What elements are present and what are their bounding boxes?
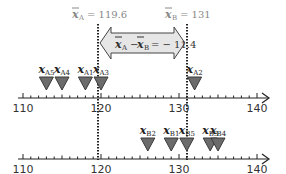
- tick-label: 110: [13, 163, 34, 174]
- group-a-points: xA5xA4xA1xA3xA2: [37, 63, 202, 90]
- tick-label: 130: [169, 102, 190, 115]
- point-label: xA2: [186, 63, 203, 77]
- triangle-marker-icon: [39, 77, 53, 90]
- tick-label: 120: [91, 163, 112, 174]
- point-label: xB2: [139, 124, 156, 138]
- tick-label: 120: [91, 102, 112, 115]
- point-label: xA5: [37, 63, 54, 77]
- tick-label: 110: [13, 102, 34, 115]
- triangle-marker-icon: [78, 77, 92, 90]
- mean-difference-diagram: x A = 119.6 x B = 131 x A − x B = − 11.4…: [0, 0, 286, 174]
- triangle-marker-icon: [94, 77, 108, 90]
- triangle-marker-icon: [55, 77, 69, 90]
- svg-text:= 119.6: = 119.6: [87, 9, 127, 20]
- triangle-marker-icon: [188, 77, 202, 90]
- mean-b-label: x B = 131: [164, 8, 211, 22]
- svg-text:A: A: [78, 14, 85, 22]
- triangle-marker-icon: [180, 138, 194, 151]
- svg-text:x: x: [71, 8, 79, 21]
- triangle-marker-icon: [141, 138, 155, 151]
- svg-text:B: B: [172, 14, 177, 22]
- svg-text:x: x: [136, 38, 144, 51]
- svg-text:= − 11.4: = − 11.4: [151, 39, 196, 50]
- tick-label: 140: [247, 102, 268, 115]
- svg-text:B: B: [144, 44, 149, 52]
- point-label: xA4: [53, 63, 71, 77]
- svg-text:x: x: [114, 38, 122, 51]
- svg-text:A: A: [121, 44, 128, 52]
- mean-a-label: x A = 119.6: [71, 8, 127, 22]
- svg-text:x: x: [164, 8, 172, 21]
- tick-label: 130: [169, 163, 190, 174]
- group-b-points: xB2xB1xB5xB3xB4: [139, 124, 227, 151]
- point-label: xA1: [76, 63, 93, 77]
- point-label: xB4: [209, 124, 227, 138]
- point-label: xB1: [162, 124, 179, 138]
- axis-a: 110120130140: [13, 93, 270, 115]
- svg-text:= 131: = 131: [180, 9, 211, 20]
- tick-label: 140: [247, 163, 268, 174]
- triangle-marker-icon: [164, 138, 178, 151]
- axis-b: 110120130140: [13, 154, 270, 174]
- point-label: xA3: [92, 63, 109, 77]
